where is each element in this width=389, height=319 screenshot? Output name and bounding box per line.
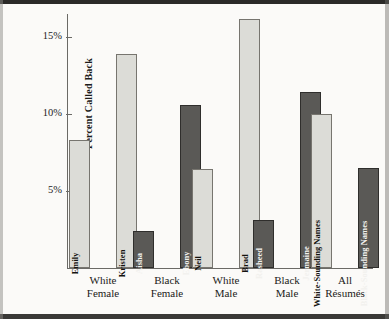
bar-label: Brad [241,254,249,273]
bar-label: Emily [71,252,79,274]
bar: Neil [192,169,213,268]
bar: White-Sounding Names [311,114,332,268]
y-tick-label: 15% [43,30,62,41]
y-tick-mark [66,37,72,38]
bar-label: Ebony [182,251,190,275]
bar-label: Aisha [135,253,143,274]
plot-area: Percent Called Back 15%10%5%EmilyKristen… [67,14,373,268]
y-tick-mark [66,114,72,115]
bar-label: Neil [194,256,202,271]
category-label-line: All [305,274,385,287]
page-edge-top [0,0,389,4]
bar: Rasheed [253,220,274,268]
y-tick-label: 5% [48,184,62,195]
bar: Aisha [133,231,154,268]
category-label: AllRésumés [305,274,385,299]
chart-figure: Percent Called Back 15%10%5%EmilyKristen… [0,0,389,319]
y-tick-label: 10% [43,107,62,118]
bar: Emily [69,140,90,268]
page-edge-left [0,0,3,319]
x-axis-line [67,268,373,269]
category-label-line: Résumés [305,287,385,300]
bar-label: Kristen [118,249,126,277]
page-edge-right [385,0,389,319]
page-edge-bottom [0,314,389,319]
bar: Black-Sounding Names [358,168,379,268]
